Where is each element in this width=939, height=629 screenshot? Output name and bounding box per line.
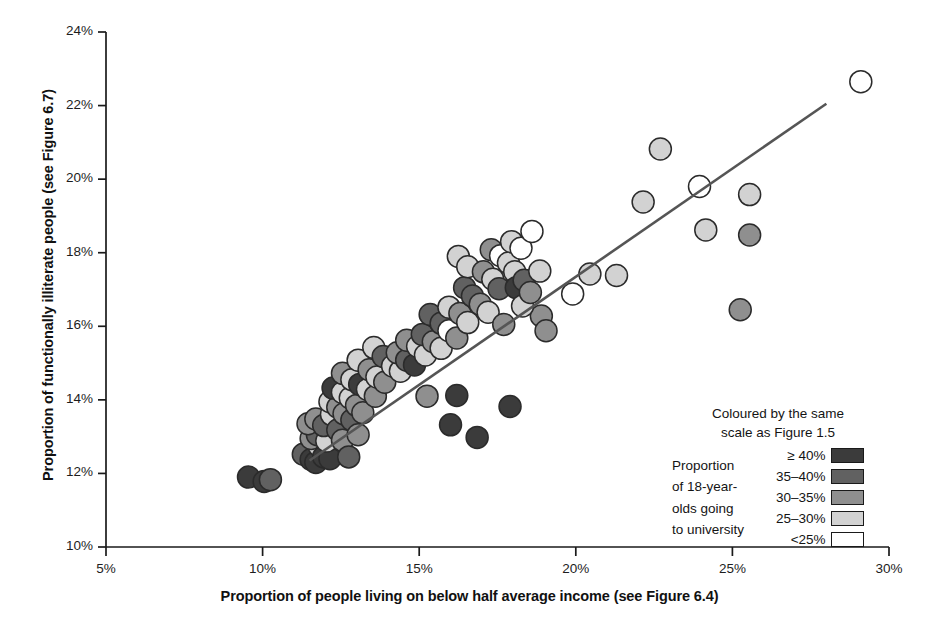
data-point [529,260,551,282]
legend-row: 35–40% [776,467,864,486]
data-point [606,265,628,287]
legend: Coloured by the same scale as Figure 1.5… [672,404,922,549]
legend-row: 30–35% [776,488,864,507]
y-tick-label: 10% [39,538,93,553]
legend-body: Proportion of 18-year- olds going to uni… [672,446,922,549]
legend-heading-line1: Coloured by the same [672,404,884,423]
x-tick-label: 10% [233,561,293,576]
x-tick-label: 20% [546,561,606,576]
figure-scatter-illiteracy-vs-poverty: Proportion of functionally illiterate pe… [0,0,939,629]
y-tick-label: 14% [39,391,93,406]
legend-row: <25% [776,530,864,549]
y-tick-label: 20% [39,170,93,185]
data-point [739,224,761,246]
data-point [562,283,584,305]
legend-colour-swatch [831,469,864,484]
legend-heading-line2: scale as Figure 1.5 [672,423,884,442]
data-point [446,384,468,406]
data-point [416,385,438,407]
legend-row: 25–30% [776,509,864,528]
y-tick-label: 12% [39,464,93,479]
legend-desc-line4: to university [672,519,776,541]
data-point [521,220,543,242]
y-tick-label: 16% [39,317,93,332]
data-point [338,446,360,468]
data-point [850,71,872,93]
legend-row-label: 35–40% [776,469,826,484]
legend-desc-line2: of 18-year- [672,476,776,498]
legend-description: Proportion of 18-year- olds going to uni… [672,455,776,541]
data-point [466,426,488,448]
legend-row-label: 30–35% [776,490,826,505]
y-tick-label: 24% [39,23,93,38]
legend-colour-swatch [831,532,864,547]
data-point [649,138,671,160]
x-tick-label: 30% [859,561,919,576]
data-point [535,320,557,342]
data-point [632,191,654,213]
data-point [695,219,717,241]
data-point [440,414,462,436]
y-tick-label: 22% [39,97,93,112]
data-point [259,469,281,491]
legend-row-label: <25% [791,532,826,547]
legend-row-label: 25–30% [776,511,826,526]
x-tick-label: 25% [702,561,762,576]
data-point [499,395,521,417]
data-point [519,281,541,303]
legend-colour-scale: ≥ 40%35–40%30–35%25–30%<25% [776,446,864,549]
legend-desc-line3: olds going [672,498,776,520]
x-tick-label: 15% [389,561,449,576]
legend-row: ≥ 40% [776,446,864,465]
legend-row-label: ≥ 40% [787,448,825,463]
legend-desc-line1: Proportion [672,455,776,477]
legend-colour-swatch [831,490,864,505]
legend-colour-swatch [831,511,864,526]
x-axis-title: Proportion of people living on below hal… [0,588,939,604]
y-tick-label: 18% [39,244,93,259]
data-point [739,184,761,206]
legend-colour-swatch [831,448,864,463]
data-point [729,299,751,321]
x-tick-label: 5% [76,561,136,576]
